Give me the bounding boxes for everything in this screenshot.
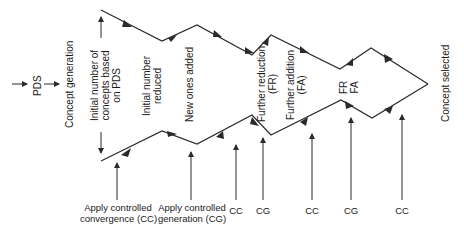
further-reduction-line-2: (FR) — [267, 46, 278, 122]
cg-label-2: CG — [253, 205, 273, 216]
apply-cg-line-1: Apply controlled — [154, 202, 230, 213]
apply-cg-line-2: generation (CG) — [154, 213, 230, 224]
further-reduction-line-1: Further reduction — [256, 46, 267, 122]
cc-label-4: CC — [392, 205, 412, 216]
control-arrows — [117, 115, 402, 200]
concept-generation-label: Concept generation — [64, 41, 75, 128]
apply-cc-line-1: Apply controlled — [80, 202, 156, 213]
initial-reduced-line-2: reduced — [152, 56, 163, 116]
initial-concepts-line-3: on PDS — [111, 50, 122, 121]
concept-selected-label: Concept selected — [440, 45, 451, 122]
further-addition-label: Further addition (FA) — [285, 50, 307, 120]
fr-label: FR — [338, 81, 349, 94]
cc-label-2: CC — [226, 205, 246, 216]
initial-reduced-label: Initial number reduced — [141, 56, 163, 116]
further-addition-line-1: Further addition — [285, 50, 296, 120]
cc-label-3: CC — [302, 205, 322, 216]
initial-concepts-label: Initial number of concepts based on PDS — [89, 50, 122, 121]
initial-reduced-line-1: Initial number — [141, 56, 152, 116]
apply-cc-line-2: convergence (CC) — [80, 213, 156, 224]
further-reduction-label: Further reduction (FR) — [256, 46, 278, 122]
apply-cc-label: Apply controlled convergence (CC) — [80, 202, 156, 224]
initial-concepts-line-2: concepts based — [100, 50, 111, 121]
new-ones-added-label: New ones added — [184, 47, 195, 122]
further-addition-line-2: (FA) — [296, 50, 307, 120]
pds-label: PDS — [32, 75, 43, 96]
apply-cg-label: Apply controlled generation (CG) — [154, 202, 230, 224]
fr-fa-label: FR FA — [338, 81, 360, 94]
initial-concepts-line-1: Initial number of — [89, 50, 100, 121]
cg-label-3: CG — [341, 205, 361, 216]
fa-label: FA — [349, 81, 360, 94]
